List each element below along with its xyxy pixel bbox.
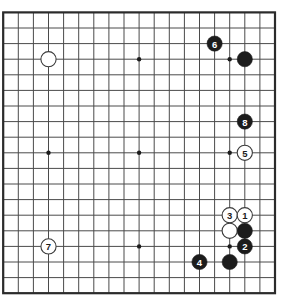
stone-white-3[interactable]: 3 <box>222 208 237 223</box>
star-point <box>137 57 141 61</box>
stone-white-7[interactable]: 7 <box>41 239 56 254</box>
stone-white-upper-left[interactable] <box>41 52 56 67</box>
star-point <box>228 151 232 155</box>
white-stone <box>222 208 237 223</box>
stone-black-8[interactable]: 8 <box>237 114 252 129</box>
stone-black-lower-center[interactable] <box>222 254 237 269</box>
black-stone <box>207 36 222 51</box>
black-stone <box>237 223 252 238</box>
black-stone <box>192 254 207 269</box>
stone-white-lower-right[interactable] <box>222 223 237 238</box>
black-stone <box>237 114 252 129</box>
stone-black-lower-right[interactable] <box>237 223 252 238</box>
star-point <box>228 57 232 61</box>
star-point <box>137 244 141 248</box>
star-point <box>46 151 50 155</box>
star-point <box>228 244 232 248</box>
black-stone <box>237 239 252 254</box>
black-stone <box>237 52 252 67</box>
star-point <box>137 151 141 155</box>
go-board-svg: 68531274 <box>0 0 283 306</box>
go-board-diagram: 68531274 <box>0 0 283 306</box>
black-stone <box>222 254 237 269</box>
stone-black-4[interactable]: 4 <box>192 254 207 269</box>
stone-black-2[interactable]: 2 <box>237 239 252 254</box>
white-stone <box>222 223 237 238</box>
white-stone <box>41 52 56 67</box>
white-stone <box>237 145 252 160</box>
stone-black-upper-right[interactable] <box>237 52 252 67</box>
white-stone <box>237 208 252 223</box>
stone-black-6[interactable]: 6 <box>207 36 222 51</box>
white-stone <box>41 239 56 254</box>
stone-white-5[interactable]: 5 <box>237 145 252 160</box>
stone-white-1[interactable]: 1 <box>237 208 252 223</box>
